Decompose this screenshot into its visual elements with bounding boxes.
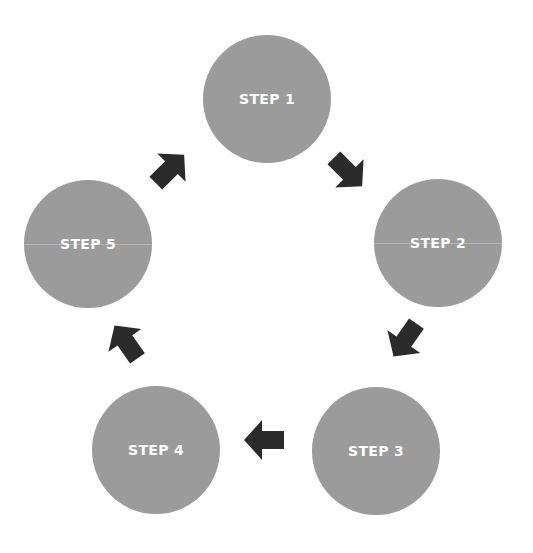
- step-4-node: STEP 4: [92, 386, 220, 514]
- arrow-step4-to-step5-icon: [95, 311, 156, 372]
- step-1-label: STEP 1: [239, 91, 295, 107]
- arrow-step2-to-step3-icon: [374, 309, 435, 370]
- step-2-node: STEP 2: [374, 179, 502, 307]
- arrow-step1-to-step2-icon: [317, 141, 379, 203]
- step-2-label: STEP 2: [410, 235, 466, 251]
- arrow-step3-to-step4-icon: [242, 418, 286, 462]
- step-5-node: STEP 5: [24, 180, 152, 308]
- step-3-label: STEP 3: [348, 443, 404, 459]
- step-4-label: STEP 4: [128, 442, 184, 458]
- step-1-node: STEP 1: [203, 35, 331, 163]
- step-3-node: STEP 3: [312, 387, 440, 515]
- arrow-step5-to-step1-icon: [139, 138, 201, 200]
- step-5-label: STEP 5: [60, 236, 116, 252]
